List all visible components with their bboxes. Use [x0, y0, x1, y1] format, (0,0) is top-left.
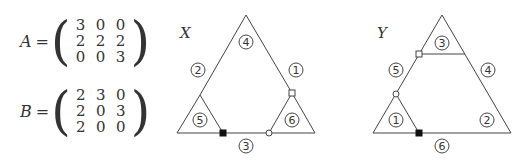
diagram-x-title: X — [179, 24, 192, 42]
region-label: 4 — [243, 36, 250, 49]
region-label: 3 — [439, 37, 446, 50]
open-square-marker — [289, 90, 295, 96]
black-square-marker — [220, 130, 227, 137]
open-circle-marker — [266, 130, 272, 136]
diagrams-canvas: X Y 4 2 1 5 6 3 3 5 4 1 2 6 — [0, 0, 529, 164]
region-label: 6 — [439, 140, 446, 153]
region-label: 5 — [197, 114, 204, 127]
region-label: 3 — [243, 140, 250, 153]
region-label: 1 — [293, 64, 300, 77]
region-label: 1 — [393, 114, 400, 127]
open-circle-marker — [393, 91, 399, 97]
open-square-marker — [416, 51, 422, 57]
region-label: 2 — [484, 114, 491, 127]
region-label: 4 — [485, 64, 492, 77]
region-label: 2 — [195, 64, 202, 77]
black-square-marker — [416, 130, 423, 137]
diagram-y-title: Y — [377, 24, 389, 42]
diagram-x-labels: 4 2 1 5 6 3 — [191, 35, 303, 153]
region-label: 6 — [289, 114, 296, 127]
region-label: 5 — [393, 64, 400, 77]
